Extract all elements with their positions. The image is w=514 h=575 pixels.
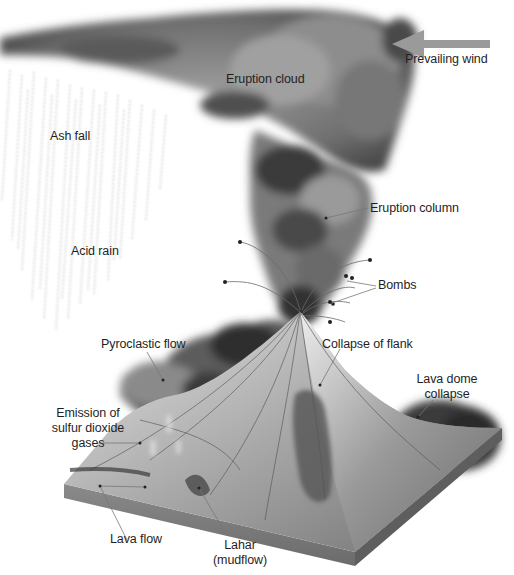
label-lava-dome-collapse: Lava dome collapse — [412, 372, 482, 402]
volcano-diagram: Prevailing wind Eruption cloud Ash fall … — [0, 0, 514, 575]
label-prevailing-wind: Prevailing wind — [405, 52, 488, 67]
label-lahar: Lahar (mudflow) — [210, 538, 270, 568]
label-lava-dome-collapse-line2: collapse — [412, 387, 482, 402]
label-collapse-of-flank: Collapse of flank — [322, 337, 413, 352]
label-eruption-column: Eruption column — [370, 201, 459, 216]
label-lahar-line2: (mudflow) — [210, 553, 270, 568]
label-ash-fall: Ash fall — [50, 129, 90, 144]
label-emission-line3: gases — [48, 436, 128, 451]
label-lahar-line1: Lahar — [210, 538, 270, 553]
eruption-cloud — [0, 9, 418, 171]
label-pyroclastic-flow: Pyroclastic flow — [101, 337, 186, 352]
label-emission-line2: sulfur dioxide — [48, 421, 128, 436]
label-emission-line1: Emission of — [48, 406, 128, 421]
label-lava-flow: Lava flow — [110, 532, 162, 547]
label-lava-dome-collapse-line1: Lava dome — [412, 372, 482, 387]
ash-fall-streaks — [2, 70, 166, 330]
label-emission-sulfur-dioxide: Emission of sulfur dioxide gases — [48, 406, 128, 451]
label-acid-rain: Acid rain — [71, 244, 119, 259]
label-eruption-cloud: Eruption cloud — [226, 72, 305, 87]
label-bombs: Bombs — [378, 278, 416, 293]
